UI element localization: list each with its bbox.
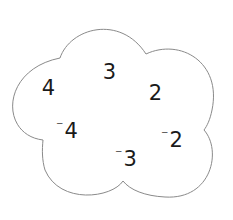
number-value: 3 [124,147,137,171]
minus-sign: ⁻ [161,127,168,143]
cloud-outline [0,0,233,220]
number-negative-2: ⁻2 [161,130,183,151]
number-value: 4 [65,119,78,143]
diagram-canvas: 4 3 2 ⁻4 ⁻2 ⁻3 [0,0,233,220]
minus-sign: ⁻ [56,118,63,134]
number-value: 2 [149,81,162,105]
minus-sign: ⁻ [115,146,122,162]
number-negative-4: ⁻4 [56,121,78,142]
number-value: 4 [42,76,55,100]
number-value: 2 [170,128,183,152]
number-4: 4 [41,78,55,99]
number-2: 2 [148,83,162,104]
number-value: 3 [103,60,116,84]
number-negative-3: ⁻3 [115,149,137,170]
number-3: 3 [102,62,116,83]
